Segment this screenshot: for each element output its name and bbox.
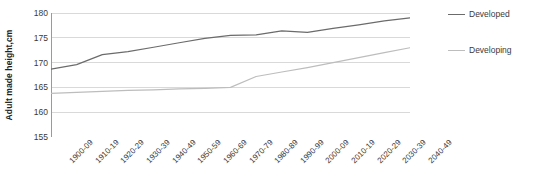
x-axis-tick-label: 1960-69 (221, 138, 248, 165)
legend-label: Developed (469, 10, 510, 19)
chart-legend: DevelopedDeveloping (448, 8, 533, 56)
x-axis-tick-label: 1930-39 (145, 138, 172, 165)
x-axis-tick-label: 1980-89 (273, 138, 300, 165)
legend-item[interactable]: Developing (448, 44, 533, 56)
x-axis-tick-label: 2040-49 (427, 138, 454, 165)
x-axis-tick-label: 1920-29 (119, 138, 146, 165)
y-axis-tick-label: 160 (22, 108, 48, 117)
legend-color-swatch (448, 14, 465, 15)
x-axis-tick-label: 1910-19 (93, 138, 120, 165)
x-axis-tick-label: 1950-59 (196, 138, 223, 165)
x-axis-tick-label: 1900-09 (68, 138, 95, 165)
y-axis-tick-labels: 155160165170175180 (18, 0, 48, 150)
plot-area (51, 13, 410, 137)
y-axis-tick-label: 170 (22, 59, 48, 68)
y-axis-tick-label: 175 (22, 34, 48, 43)
plot-svg (51, 13, 410, 137)
line-chart: Adult made height,cm 155160165170175180 … (0, 0, 533, 191)
y-axis-title: Adult made height,cm (0, 0, 18, 150)
x-axis-tick-label: 2000-09 (324, 138, 351, 165)
x-axis-tick-label: 2020-29 (375, 138, 402, 165)
legend-color-swatch (448, 50, 465, 51)
y-axis-tick-label: 180 (22, 9, 48, 18)
legend-label: Developing (469, 46, 512, 55)
x-axis-tick-label: 1940-49 (170, 138, 197, 165)
y-axis-title-text: Adult made height,cm (4, 30, 14, 121)
legend-item[interactable]: Developed (448, 8, 533, 20)
y-axis-tick-label: 155 (22, 133, 48, 142)
x-axis-tick-label: 1970-79 (247, 138, 274, 165)
x-axis-tick-label: 2010-19 (350, 138, 377, 165)
y-axis-tick-label: 165 (22, 83, 48, 92)
x-axis-tick-label: 2030-39 (401, 138, 428, 165)
x-axis-tick-label: 1990-99 (298, 138, 325, 165)
x-axis-tick-labels: 1900-091910-191920-291930-391940-491950-… (51, 138, 416, 191)
series-line (51, 18, 410, 69)
